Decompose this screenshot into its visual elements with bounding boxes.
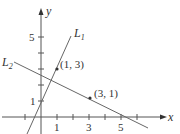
point-label-3-1: (3, 1): [94, 87, 118, 100]
point-1-3: [55, 67, 58, 70]
x-tick-label-1: 1: [54, 121, 60, 133]
y-tick-label-1: 1: [30, 95, 36, 107]
coordinate-diagram: y x 5 1 1 3 5 (1, 3) (3, 1) L1 L2: [0, 0, 180, 134]
line-label-l2: L2: [1, 55, 13, 71]
point-3-1: [88, 96, 91, 99]
x-axis-label: x: [167, 110, 174, 124]
line-l1: [27, 36, 71, 134]
y-axis-label: y: [45, 4, 52, 18]
y-axis-arrow-icon: [39, 8, 44, 15]
line-label-l1: L1: [73, 26, 85, 42]
x-tick-label-3: 3: [86, 121, 92, 133]
x-axis-arrow-icon: [160, 115, 167, 120]
point-label-1-3: (1, 3): [60, 58, 84, 71]
x-tick-label-5: 5: [118, 121, 124, 133]
y-tick-label-5: 5: [29, 31, 35, 43]
